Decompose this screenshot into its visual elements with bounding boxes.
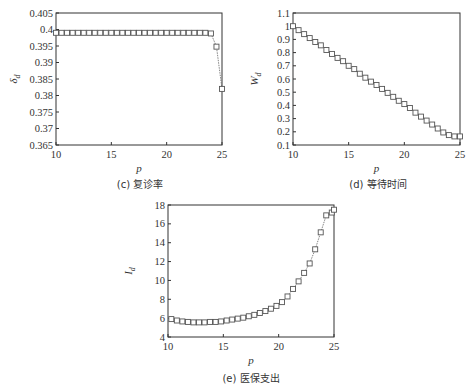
y-tick-label: 0.7 [277, 60, 290, 71]
data-point-marker [296, 279, 301, 284]
data-point-marker [435, 126, 440, 131]
data-point-marker [103, 30, 108, 35]
y-axis-label: δd [7, 73, 22, 83]
data-point-marker [307, 261, 312, 266]
data-point-marker [170, 30, 175, 35]
data-point-marker [87, 30, 92, 35]
y-tick-label: 0.6 [277, 74, 290, 85]
data-point-marker [202, 320, 207, 325]
x-tick-label: 15 [106, 149, 117, 160]
y-axis-label: Wd [248, 71, 263, 85]
data-point-marker [430, 122, 435, 127]
figure-canvas: 101520250.3650.370.3750.380.3850.390.395… [0, 0, 470, 390]
data-point-marker [380, 86, 385, 91]
x-tick-label: 15 [343, 149, 354, 160]
caption-c: (c) 复诊率 [117, 176, 163, 191]
data-point-marker [357, 71, 362, 76]
data-point-marker [424, 118, 429, 123]
y-tick-label: 0.2 [277, 126, 290, 137]
y-tick-label: 8 [160, 294, 165, 305]
data-point-marker [329, 51, 334, 56]
y-tick-label: 0.365 [29, 140, 53, 151]
y-tick-label: 0.38 [35, 90, 53, 101]
data-point-marker [70, 30, 75, 35]
data-point-marker [368, 79, 373, 84]
data-point-marker [159, 30, 164, 35]
y-tick-label: 10 [155, 275, 166, 286]
data-point-marker [169, 317, 174, 322]
data-point-marker [302, 32, 307, 37]
x-tick-label: 25 [455, 149, 466, 160]
data-point-marker [192, 30, 197, 35]
data-point-marker [224, 318, 229, 323]
data-point-marker [241, 315, 246, 320]
data-point-marker [203, 30, 208, 35]
data-point-marker [181, 30, 186, 35]
data-point-marker [246, 314, 251, 319]
chart-e-insurance-expenditure: 101520254681012141618pId [122, 200, 339, 367]
y-tick-label: 1.1 [277, 8, 290, 19]
data-point-marker [109, 30, 114, 35]
x-tick-label: 20 [273, 341, 284, 352]
y-tick-label: 0.375 [29, 107, 53, 118]
x-tick-label: 10 [163, 341, 174, 352]
x-tick-label: 25 [329, 341, 340, 352]
y-tick-label: 1 [285, 21, 290, 32]
data-point-marker [213, 319, 218, 324]
data-point-marker [54, 30, 59, 35]
data-point-marker [446, 133, 451, 138]
data-point-marker [313, 247, 318, 252]
data-point-marker [131, 30, 136, 35]
data-point-marker [324, 213, 329, 218]
data-point-marker [318, 230, 323, 235]
data-point-marker [59, 30, 64, 35]
data-point-marker [220, 86, 225, 91]
data-point-marker [235, 316, 240, 321]
data-point-marker [335, 55, 340, 60]
data-point-marker [407, 106, 412, 111]
y-tick-label: 0.39 [35, 57, 53, 68]
data-point-marker [76, 30, 81, 35]
data-point-marker [385, 90, 390, 95]
data-point-marker [114, 30, 119, 35]
x-tick-label: 20 [399, 149, 410, 160]
data-point-marker [352, 67, 357, 72]
x-tick-label: 10 [288, 149, 299, 160]
data-point-marker [285, 294, 290, 299]
data-point-marker [164, 30, 169, 35]
data-point-marker [291, 24, 296, 29]
data-point-marker [208, 319, 213, 324]
caption-d: (d) 等待时间 [349, 176, 406, 191]
data-point-marker [137, 30, 142, 35]
data-point-marker [252, 312, 257, 317]
data-point-marker [196, 320, 201, 325]
x-tick-label: 20 [161, 149, 172, 160]
data-point-marker [318, 43, 323, 48]
data-point-marker [419, 114, 424, 119]
data-point-marker [180, 319, 185, 324]
y-tick-label: 18 [155, 200, 166, 211]
data-point-marker [391, 94, 396, 99]
data-point-marker [186, 30, 191, 35]
y-tick-label: 0.9 [277, 34, 290, 45]
data-point-marker [230, 317, 235, 322]
data-point-marker [341, 59, 346, 64]
y-tick-label: 16 [155, 218, 166, 229]
data-point-marker [279, 300, 284, 305]
y-tick-label: 0.1 [277, 140, 290, 151]
data-point-marker [402, 102, 407, 107]
y-tick-label: 0.405 [29, 8, 53, 19]
x-tick-label: 10 [51, 149, 62, 160]
data-point-marker [208, 31, 213, 36]
chart-d-waiting-time: 101520250.10.20.30.40.50.60.70.80.911.1p… [248, 8, 465, 175]
y-tick-label: 6 [160, 313, 165, 324]
data-point-marker [142, 30, 147, 35]
data-point-marker [120, 30, 125, 35]
data-point-marker [175, 30, 180, 35]
data-point-marker [274, 303, 279, 308]
data-point-marker [452, 134, 457, 139]
series-line [56, 33, 222, 89]
data-point-marker [148, 30, 153, 35]
x-axis-label: p [247, 354, 254, 366]
y-tick-label: 0.37 [35, 123, 53, 134]
